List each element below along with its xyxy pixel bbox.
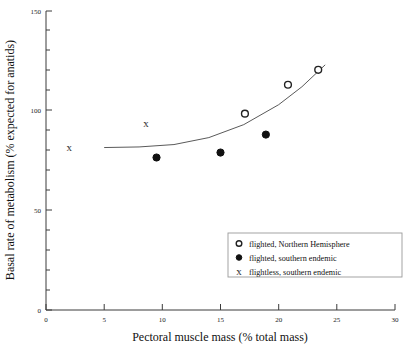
series-flighted-southern-points — [153, 131, 270, 161]
legend-label-flightless-southern: flightless, southern endemic — [249, 268, 341, 277]
y-tick-label-100: 100 — [31, 107, 42, 115]
legend: flighted, Northern Hemisphere flighted, … — [228, 233, 402, 277]
x-tick-label-10: 10 — [159, 316, 167, 324]
x-tick-label-30: 30 — [392, 316, 400, 324]
series-flighted-northern-points — [242, 66, 322, 117]
legend-marker-filled-circle — [236, 255, 242, 261]
x-axis-tick-labels: 0 5 10 15 20 25 30 — [44, 316, 399, 324]
data-point-open-circle-1 — [285, 81, 292, 88]
scatter-plot-figure: 0 50 100 150 0 5 10 15 20 25 30 Pectoral… — [0, 0, 414, 346]
y-axis-title: Basal rate of metabolism (% expected for… — [3, 40, 17, 280]
x-tick-label-15: 15 — [217, 316, 225, 324]
y-tick-label-0: 0 — [38, 307, 42, 315]
y-axis-ticks — [46, 11, 52, 310]
x-tick-label-5: 5 — [102, 316, 106, 324]
legend-label-flighted-southern: flighted, southern endemic — [249, 254, 337, 263]
x-axis-title: Pectoral muscle mass (% total mass) — [132, 330, 308, 344]
x-axis-ticks — [46, 304, 395, 310]
data-point-filled-circle-0 — [153, 154, 160, 161]
x-tick-label-25: 25 — [333, 316, 341, 324]
data-point-open-circle-2 — [315, 66, 322, 73]
data-point-open-circle-0 — [242, 110, 249, 117]
y-tick-label-150: 150 — [31, 8, 42, 16]
data-point-x-0: x — [67, 141, 73, 153]
data-point-filled-circle-1 — [217, 149, 224, 156]
y-axis-tick-labels: 0 50 100 150 — [31, 8, 42, 315]
fit-curve — [104, 65, 325, 148]
x-tick-label-0: 0 — [44, 316, 48, 324]
x-tick-label-20: 20 — [275, 316, 283, 324]
y-tick-label-50: 50 — [34, 207, 42, 215]
legend-marker-x-icon: x — [236, 265, 242, 277]
data-point-x-1: x — [143, 117, 149, 129]
data-point-filled-circle-2 — [262, 131, 269, 138]
legend-marker-open-circle — [236, 241, 242, 247]
legend-label-flighted-northern: flighted, Northern Hemisphere — [249, 240, 350, 249]
